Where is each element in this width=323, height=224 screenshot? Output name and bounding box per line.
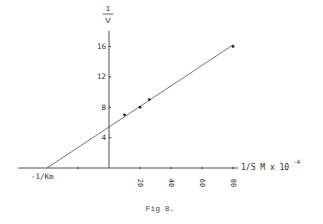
y-tick-label: 4: [101, 133, 106, 142]
data-point: [148, 98, 151, 101]
lineweaver-burk-chart: 20406080481216 1 V 1/S M x 10 -4 -1/Km F…: [0, 0, 323, 224]
data-point: [123, 113, 126, 116]
y-tick-label: 12: [97, 72, 106, 81]
y-label-denominator: V: [105, 16, 111, 25]
x-label-exponent: -4: [293, 158, 301, 165]
y-tick-label: 16: [97, 42, 107, 51]
x-axis-label: 1/S M x 10 -4: [241, 158, 301, 172]
x-tick-label: 60: [198, 179, 206, 187]
y-axis-label: 1 V: [103, 4, 113, 25]
data-point: [139, 106, 142, 109]
x-tick-label: 80: [229, 179, 237, 187]
axis-ticks: 20406080481216: [78, 42, 237, 187]
x-tick-label: 40: [167, 179, 175, 187]
axes: [18, 31, 238, 168]
y-label-numerator: 1: [106, 4, 111, 13]
figure-caption: Fig 8.: [146, 204, 175, 213]
y-tick-label: 8: [101, 103, 106, 112]
x-tick-label: 20: [136, 179, 144, 187]
data-point: [232, 45, 235, 48]
km-annotation: -1/Km: [31, 172, 54, 181]
x-label-main: 1/S M x 10: [241, 163, 289, 172]
